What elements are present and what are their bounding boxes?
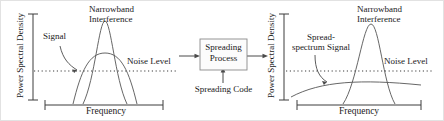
right-y-axis-label: Power Spectral Density (266, 13, 276, 98)
right-noise-level-label: Noise Level (384, 57, 428, 67)
right-signal-label-line2: spectrum Signal (284, 43, 358, 53)
figure-canvas: Power Spectral Density Frequency Signal … (0, 0, 444, 121)
right-x-axis-label: Frequency (339, 106, 379, 116)
right-signal-leader (315, 55, 327, 82)
right-interference-label-line2: Interference (357, 15, 400, 25)
right-spread-signal-curve (291, 82, 421, 97)
right-y-axis (279, 14, 289, 100)
